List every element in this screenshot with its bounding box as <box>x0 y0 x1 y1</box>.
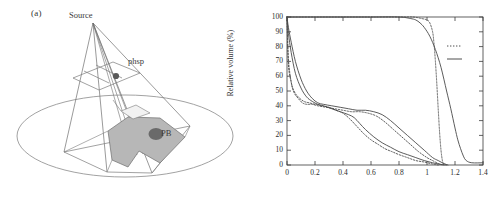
x-tick-label: 1.2 <box>443 168 467 177</box>
y-tick-label: 30 <box>261 116 283 125</box>
dvh-curve-esophagus-pb <box>287 17 448 165</box>
x-tick-label: 0.8 <box>387 168 411 177</box>
y-tick-label: 40 <box>261 101 283 110</box>
phsp-label: phsp <box>128 56 144 66</box>
x-tick-label: 0 <box>275 168 299 177</box>
dvh-curve-ptv-mc <box>287 17 444 165</box>
y-tick-label: 20 <box>261 130 283 139</box>
y-tick-label: 50 <box>261 86 283 95</box>
geometry-diagram-svg <box>0 0 252 197</box>
y-tick-label: 100 <box>261 12 283 21</box>
x-tick-label: 1.4 <box>471 168 495 177</box>
axes-layer <box>287 17 483 165</box>
y-tick-label: 80 <box>261 42 283 51</box>
y-tick-label: 90 <box>261 27 283 36</box>
pb-label: PB <box>161 128 171 138</box>
plot-frame <box>287 17 483 165</box>
source-label: Source <box>69 10 93 20</box>
figure-container: (a) <box>0 0 504 197</box>
x-tick-label: 0.4 <box>331 168 355 177</box>
panel-b-dvh-chart: (b) Relative dose (%) Relative volume (%… <box>252 0 504 197</box>
y-tick-label: 60 <box>261 71 283 80</box>
y-tick-label: 10 <box>261 145 283 154</box>
phsp-point <box>113 73 119 79</box>
panel-a-diagram: (a) <box>0 0 252 197</box>
legend-layer <box>447 46 462 59</box>
dvh-curve-esophagus-mc <box>287 17 444 165</box>
y-tick-label: 0 <box>261 160 283 169</box>
x-tick-label: 0.6 <box>359 168 383 177</box>
dvh-curve-ptv-pb <box>287 17 483 163</box>
panel-a-label: (a) <box>31 8 42 18</box>
y-tick-label: 70 <box>261 56 283 65</box>
dvh-curve-lungs-pb <box>287 17 447 165</box>
x-tick-label: 0.2 <box>303 168 327 177</box>
curves-layer <box>287 17 483 165</box>
x-tick-label: 1 <box>415 168 439 177</box>
